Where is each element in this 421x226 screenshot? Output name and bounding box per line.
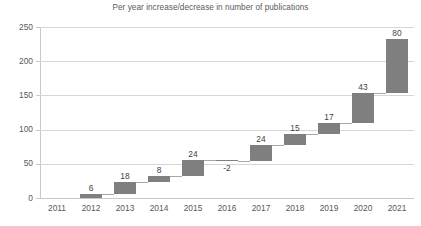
bar-2021[interactable]: [386, 39, 407, 94]
connector-line: [170, 176, 183, 177]
gridline-200: [40, 61, 414, 62]
bar-2016[interactable]: [216, 160, 237, 162]
connector-line: [340, 123, 353, 124]
bar-2019[interactable]: [318, 123, 339, 135]
bar-2018[interactable]: [284, 134, 305, 144]
x-axis-tick-label: 2012: [74, 203, 108, 213]
y-axis-tick-label: 150: [0, 90, 33, 100]
data-label-2015: 24: [176, 149, 210, 159]
data-label-2017: 24: [244, 134, 278, 144]
x-axis-tick-label: 2015: [176, 203, 210, 213]
bar-2015[interactable]: [182, 160, 203, 176]
connector-line: [374, 93, 387, 94]
connector-line: [204, 160, 217, 161]
y-axis-tick-label: 50: [0, 158, 33, 168]
data-label-2021: 80: [380, 28, 414, 38]
x-axis-tick-label: 2014: [142, 203, 176, 213]
bar-2013[interactable]: [114, 182, 135, 194]
connector-line: [272, 145, 285, 146]
x-axis-tick-label: 2021: [380, 203, 414, 213]
gridline-250: [40, 27, 414, 28]
y-axis-tick-label: 200: [0, 56, 33, 66]
y-axis-tick-label: 100: [0, 124, 33, 134]
waterfall-chart: Per year increase/decrease in number of …: [0, 0, 421, 226]
bar-2020[interactable]: [352, 93, 373, 122]
bar-2012[interactable]: [80, 194, 101, 198]
data-label-2020: 43: [346, 82, 380, 92]
data-label-2012: 6: [74, 183, 108, 193]
data-label-2019: 17: [312, 112, 346, 122]
bar-2014[interactable]: [148, 176, 169, 181]
x-axis-tick-label: 2020: [346, 203, 380, 213]
data-label-2013: 18: [108, 171, 142, 181]
x-axis-tick-label: 2018: [278, 203, 312, 213]
x-axis-tick-label: 2013: [108, 203, 142, 213]
data-label-2018: 15: [278, 123, 312, 133]
chart-title: Per year increase/decrease in number of …: [0, 3, 421, 12]
connector-line: [136, 182, 149, 183]
x-axis-tick-label: 2016: [210, 203, 244, 213]
x-axis-tick-label: 2017: [244, 203, 278, 213]
data-label-2014: 8: [142, 165, 176, 175]
gridline-100: [40, 130, 414, 131]
y-axis-tick-label: 0: [0, 193, 33, 203]
bar-2017[interactable]: [250, 145, 271, 161]
gridline-0: [40, 198, 414, 199]
connector-line: [306, 134, 319, 135]
y-axis-tick-label: 250: [0, 22, 33, 32]
x-axis-tick-label: 2011: [40, 203, 74, 213]
connector-line: [102, 194, 115, 195]
data-label-2016: -2: [210, 163, 244, 173]
x-axis-tick-label: 2019: [312, 203, 346, 213]
